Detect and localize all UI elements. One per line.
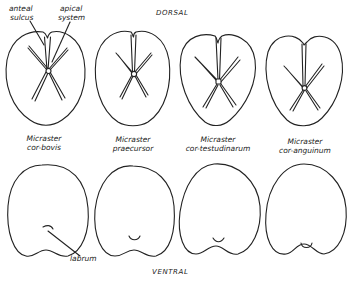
label-dorsal: DORSAL (156, 9, 189, 18)
label-anterior-sulcus-line1: anteal (9, 4, 34, 13)
species-label-cor-bovis: Micraster cor-bovis (22, 134, 66, 152)
species-name: cor-bovis (22, 143, 66, 152)
dorsal-test-praecursor (95, 31, 169, 125)
label-labrum: labrum (70, 254, 97, 263)
label-ventral: VENTRAL (152, 268, 188, 277)
species-name: cor-testudinarum (180, 144, 256, 153)
label-anterior-sulcus-line2: sulcus (9, 13, 34, 22)
label-anterior-sulcus: anteal sulcus (9, 4, 34, 22)
ventral-test-cor-anguinum (266, 164, 347, 254)
ventral-test-praecursor (95, 166, 175, 256)
ventral-test-cor-bovis (8, 165, 89, 257)
species-name: praecursor (108, 144, 158, 153)
genus-label: Micraster (273, 137, 337, 146)
dorsal-test-cor-anguinum (266, 36, 342, 126)
dorsal-test-cor-bovis (6, 21, 85, 125)
dorsal-test-cor-testudinarum (180, 35, 255, 126)
label-apical-system: apical system (58, 4, 85, 22)
ventral-test-cor-testudinarum (179, 164, 260, 254)
genus-label: Micraster (22, 134, 66, 143)
species-label-praecursor: Micraster praecursor (108, 135, 158, 153)
species-label-cor-anguinum: Micraster cor-anguinum (273, 137, 337, 155)
genus-label: Micraster (180, 135, 256, 144)
species-name: cor-anguinum (273, 146, 337, 155)
species-label-cor-testudinarum: Micraster cor-testudinarum (180, 135, 256, 153)
genus-label: Micraster (108, 135, 158, 144)
label-apical-system-line2: system (58, 13, 85, 22)
label-apical-system-line1: apical (58, 4, 85, 13)
